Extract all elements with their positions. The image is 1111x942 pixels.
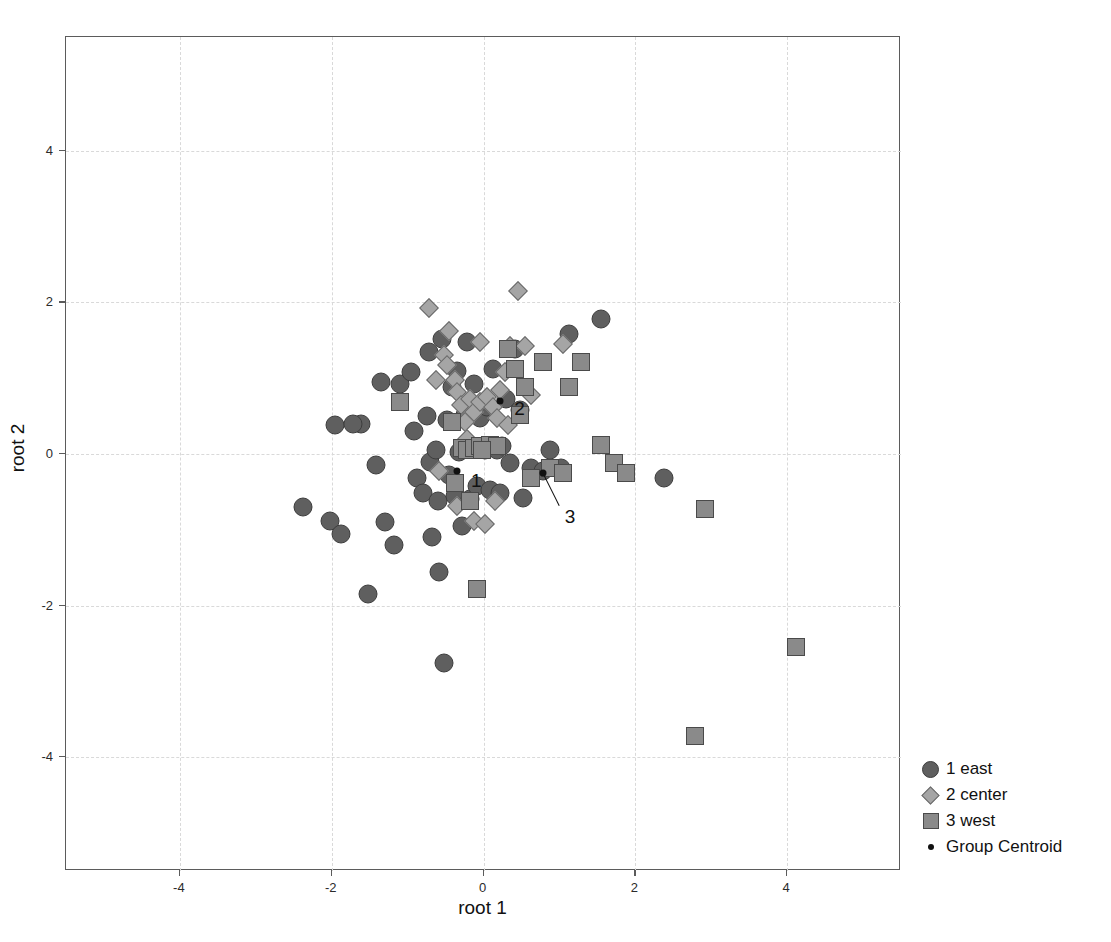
legend-item-square[interactable]: 3 west — [922, 808, 1062, 834]
group-centroid-marker — [497, 397, 504, 404]
data-point-square — [605, 454, 623, 472]
y-tick-mark — [59, 150, 65, 151]
data-point-diamond — [457, 429, 477, 449]
data-point-square — [458, 441, 476, 459]
centroid-label: 2 — [514, 398, 525, 420]
legend-item-circle[interactable]: 1 east — [922, 756, 1062, 782]
centroid-label: 1 — [471, 470, 482, 492]
x-tick-label: -2 — [325, 880, 337, 895]
data-point-circle — [465, 375, 484, 394]
x-tick-mark — [483, 870, 484, 876]
data-point-diamond — [439, 321, 459, 341]
legend-item-label: 3 west — [946, 811, 995, 831]
data-point-circle — [655, 469, 674, 488]
x-tick-label: -4 — [173, 880, 185, 895]
y-tick-label: 0 — [25, 446, 53, 461]
scatter-plot-figure: 123 -4-2024-4-2024 root 1 root 2 1 east2… — [0, 0, 1111, 942]
data-point-circle — [359, 585, 378, 604]
data-point-circle — [488, 441, 507, 460]
data-point-diamond — [455, 412, 475, 432]
centroid-label: 3 — [565, 506, 576, 528]
x-tick-mark — [634, 870, 635, 876]
data-point-circle — [293, 498, 312, 517]
data-point-diamond — [485, 491, 505, 511]
data-point-circle — [321, 511, 340, 530]
data-point-square — [560, 378, 578, 396]
data-point-circle — [470, 408, 489, 427]
data-point-circle — [592, 310, 611, 329]
gridline-horizontal — [66, 302, 901, 303]
data-point-diamond — [437, 355, 457, 375]
data-point-diamond — [475, 514, 495, 534]
data-point-circle — [372, 372, 391, 391]
data-point-diamond — [445, 370, 465, 390]
data-point-circle — [428, 492, 447, 511]
legend-item-dot[interactable]: Group Centroid — [922, 834, 1062, 860]
y-tick-mark — [59, 453, 65, 454]
data-point-diamond — [447, 496, 467, 516]
data-point-circle — [417, 407, 436, 426]
gridline-horizontal — [66, 454, 901, 455]
data-point-circle — [453, 517, 472, 536]
data-point-circle — [413, 484, 432, 503]
data-point-diamond — [508, 281, 528, 301]
data-point-square — [516, 378, 534, 396]
data-point-circle — [427, 441, 446, 460]
x-tick-label: 4 — [783, 880, 790, 895]
legend-dot-icon — [922, 839, 939, 856]
data-point-square — [686, 727, 704, 745]
legend-item-label: 1 east — [946, 759, 992, 779]
data-point-circle — [351, 414, 370, 433]
y-tick-mark — [59, 605, 65, 606]
y-tick-label: 4 — [25, 142, 53, 157]
data-point-diamond — [464, 402, 484, 422]
data-point-square — [506, 360, 524, 378]
data-point-circle — [559, 325, 578, 344]
gridline-horizontal — [66, 757, 901, 758]
data-point-diamond — [464, 511, 484, 531]
y-tick-mark — [59, 301, 65, 302]
x-tick-mark — [331, 870, 332, 876]
data-point-circle — [445, 486, 464, 505]
data-point-square — [471, 437, 489, 455]
data-point-circle — [331, 524, 350, 543]
data-point-square — [488, 437, 506, 455]
data-point-square — [522, 469, 540, 487]
data-point-diamond — [447, 382, 467, 402]
legend-item-diamond[interactable]: 2 center — [922, 782, 1062, 808]
y-tick-label: -2 — [25, 597, 53, 612]
data-point-circle — [541, 441, 560, 460]
data-point-circle — [438, 410, 457, 429]
data-point-circle — [384, 535, 403, 554]
data-point-diamond — [430, 461, 450, 481]
data-point-square — [554, 464, 572, 482]
data-point-circle — [442, 378, 461, 397]
data-point-square — [572, 353, 590, 371]
data-point-circle — [478, 397, 497, 416]
data-point-square — [696, 500, 714, 518]
data-point-square — [592, 436, 610, 454]
data-point-circle — [457, 332, 476, 351]
data-point-circle — [391, 375, 410, 394]
data-point-square — [443, 413, 461, 431]
data-point-diamond — [470, 393, 490, 413]
data-point-square — [473, 441, 491, 459]
data-point-circle — [326, 416, 345, 435]
plot-area: 123 — [65, 36, 900, 870]
data-point-circle — [407, 469, 426, 488]
data-point-circle — [435, 653, 454, 672]
data-point-circle — [450, 443, 469, 462]
group-centroid-marker — [539, 469, 546, 476]
data-point-circle — [404, 422, 423, 441]
data-point-circle — [447, 361, 466, 380]
data-point-circle — [375, 513, 394, 532]
y-axis-title: root 2 — [7, 368, 29, 528]
data-point-diamond — [487, 408, 507, 428]
data-point-square — [461, 492, 479, 510]
data-point-diamond — [515, 336, 535, 356]
data-point-diamond — [553, 334, 573, 354]
data-point-circle — [460, 490, 479, 509]
legend-diamond-icon — [922, 787, 939, 804]
legend: 1 east2 center3 westGroup Centroid — [922, 756, 1062, 860]
legend-item-label: 2 center — [946, 785, 1007, 805]
